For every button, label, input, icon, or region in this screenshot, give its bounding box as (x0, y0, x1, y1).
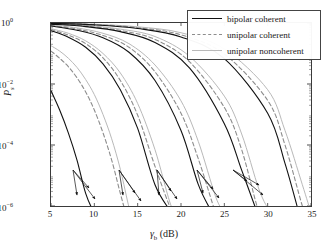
legend-label: bipolar coherent (227, 14, 286, 24)
y-axis-label: Ps (2, 87, 15, 96)
legend-swatch-dashed-icon (192, 30, 222, 40)
annotation-arrow (119, 170, 141, 201)
legend-item-unipolar-noncoherent: unipolar noncoherent (188, 43, 320, 59)
x-tick-label: 25 (220, 209, 229, 219)
x-tick-label: 35 (308, 209, 317, 219)
x-tick-label: 20 (177, 209, 186, 219)
legend-item-unipolar-coherent: unipolar coherent (188, 27, 320, 43)
x-tick-label: 30 (264, 209, 273, 219)
figure-symbol-error-probability: 100 10−2 10−4 10−6 5 10 15 20 25 30 35 P… (0, 0, 328, 251)
series-curve (51, 46, 132, 206)
series-curve (51, 31, 171, 206)
annotation-arrow (233, 170, 263, 195)
series-curve (51, 51, 126, 206)
annotation-arrow (73, 170, 95, 199)
x-tick-label: 5 (48, 209, 53, 219)
x-tick-label: 10 (89, 209, 98, 219)
legend-label: unipolar coherent (227, 30, 290, 40)
legend-label: unipolar noncoherent (227, 46, 304, 56)
series-curve (51, 91, 97, 206)
y-tick-label: 10−6 (0, 202, 13, 213)
y-tick-label: 10−4 (0, 140, 13, 151)
x-tick-label: 15 (133, 209, 142, 219)
legend-item-bipolar-coherent: bipolar coherent (188, 11, 320, 27)
legend: bipolar coherent unipolar coherent unipo… (187, 10, 321, 60)
x-axis-label: γb (dB) (150, 228, 178, 241)
legend-swatch-light-icon (192, 46, 222, 56)
legend-swatch-solid-icon (192, 14, 222, 24)
y-tick-label: 100 (1, 17, 13, 28)
